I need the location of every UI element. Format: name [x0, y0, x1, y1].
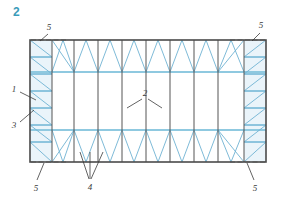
callout-label-3: 3	[11, 120, 17, 130]
leader-5-bottom-left	[37, 163, 44, 180]
tie-members	[31, 40, 265, 162]
frame-grid-columns	[52, 40, 244, 162]
callout-label-2: 2	[143, 88, 148, 98]
roof-bracing-plan-drawing: 1 3 2 4 5 5 5 5	[0, 0, 296, 199]
leader-4a	[80, 152, 89, 179]
callout-label-4: 4	[88, 182, 93, 192]
callout-label-5-bottom-left: 5	[34, 183, 39, 193]
leader-4c	[91, 152, 103, 179]
callout-label-1: 1	[12, 84, 17, 94]
callout-label-5-top-left: 5	[47, 22, 52, 32]
end-bay-fill-right	[244, 40, 266, 162]
building-outline	[30, 40, 266, 162]
corner-diagonals	[52, 40, 244, 162]
leader-2a	[127, 99, 142, 108]
roof-chord-lines	[30, 72, 266, 130]
leader-2b	[148, 99, 162, 108]
callout-label-5-top-right: 5	[259, 20, 264, 30]
end-bay-fill-left	[30, 40, 52, 162]
leader-5-bottom-right	[247, 163, 254, 180]
figure-root: 2	[0, 0, 296, 199]
horizontal-roof-bracing-bottom	[52, 130, 244, 162]
callout-label-5-bottom-right: 5	[253, 183, 258, 193]
horizontal-roof-bracing-top	[52, 40, 244, 72]
